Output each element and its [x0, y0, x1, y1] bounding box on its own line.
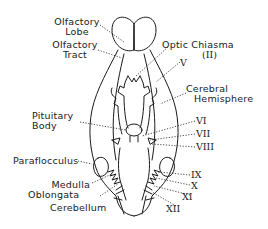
- label-line: Lobe: [52, 27, 102, 37]
- label-nerve-vii: VII: [196, 129, 210, 139]
- label-paraflocculus: Paraflocculus: [13, 156, 78, 166]
- label-nerve-vi: VI: [196, 116, 207, 126]
- label-nerve-xi: XI: [182, 192, 193, 202]
- label-line: Hemisphere: [186, 94, 253, 104]
- optic-chiasma: [118, 76, 150, 128]
- label-nerve-x: X: [191, 181, 198, 191]
- label-pituitary-body: Pituitary Body: [32, 111, 73, 131]
- label-nerve-ix: IX: [191, 170, 202, 180]
- label-line: Oblongata: [28, 190, 90, 200]
- label-cerebellum: Cerebellum: [50, 203, 106, 213]
- label-optic-chiasma: Optic Chiasma (II): [162, 40, 234, 60]
- label-olfactory-tract: Olfactory Tract: [50, 40, 100, 60]
- label-line: (II): [162, 50, 234, 60]
- medulla-oblongata: [119, 148, 150, 200]
- label-line: Optic Chiasma: [162, 40, 234, 50]
- label-line: Body: [32, 121, 73, 131]
- label-medulla-oblongata: Medulla Oblongata: [28, 180, 90, 200]
- olfactory-lobe-left: [112, 17, 134, 51]
- label-olfactory-lobe: Olfactory Lobe: [52, 17, 102, 37]
- label-nerve-viii: VIII: [196, 142, 214, 152]
- olfactory-lobe-right: [134, 17, 156, 51]
- label-line: Tract: [50, 50, 100, 60]
- label-nerve-v: V: [180, 58, 187, 68]
- pituitary-body: [126, 124, 142, 136]
- label-nerve-xii: XII: [166, 204, 180, 214]
- label-cerebral-hemisphere: Cerebral Hemisphere: [186, 84, 253, 104]
